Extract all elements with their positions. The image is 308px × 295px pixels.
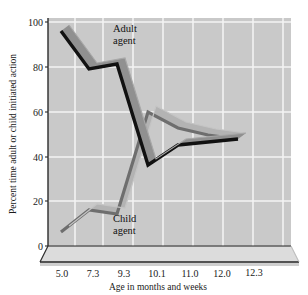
y-tick-label: 80 bbox=[33, 62, 43, 73]
child-agent-label-line2: agent bbox=[113, 225, 136, 236]
line-chart-3d: 100 80 60 40 20 0 5.0 7.3 9.3 10.1 11.0 … bbox=[0, 0, 308, 295]
y-tick-label: 40 bbox=[33, 152, 43, 163]
x-tick-label: 12.3 bbox=[245, 267, 263, 278]
y-tick-label: 20 bbox=[33, 196, 43, 207]
child-agent-label-line1: Child bbox=[113, 213, 137, 224]
x-tick-label: 11.0 bbox=[181, 268, 198, 279]
adult-agent-label-line2: agent bbox=[113, 35, 136, 46]
x-tick-label: 7.3 bbox=[87, 268, 100, 279]
annotation-adult-agent: Adult agent bbox=[113, 23, 137, 46]
x-tick-label: 12.0 bbox=[213, 268, 231, 279]
x-tick-label: 5.0 bbox=[56, 268, 69, 279]
x-axis-title: Age in months and weeks bbox=[109, 282, 207, 292]
adult-agent-label-line1: Adult bbox=[113, 23, 137, 34]
y-axis-title: Percent time adult or child initiated ac… bbox=[8, 54, 18, 214]
y-tick-label: 0 bbox=[38, 241, 43, 252]
annotation-child-agent: Child agent bbox=[113, 213, 137, 236]
x-tick-label: 10.1 bbox=[148, 268, 166, 279]
y-tick-label: 60 bbox=[33, 107, 43, 118]
x-tick-label: 9.3 bbox=[118, 268, 131, 279]
y-tick-label: 100 bbox=[28, 17, 43, 28]
chart-figure: 100 80 60 40 20 0 5.0 7.3 9.3 10.1 11.0 … bbox=[0, 0, 308, 295]
floor-plane bbox=[40, 246, 299, 262]
